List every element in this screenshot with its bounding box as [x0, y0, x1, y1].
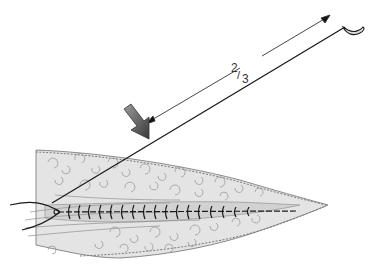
needle-icon — [343, 27, 364, 35]
fraction-denominator: 3 — [242, 72, 249, 86]
tissue — [25, 150, 328, 258]
diagram-canvas: 2 / 3 — [0, 0, 374, 271]
suture-illustration: 2 / 3 — [0, 0, 374, 271]
pointer-arrow-icon — [124, 104, 149, 139]
fraction-slash: / — [237, 69, 241, 81]
fraction-label: 2 / 3 — [231, 61, 249, 86]
